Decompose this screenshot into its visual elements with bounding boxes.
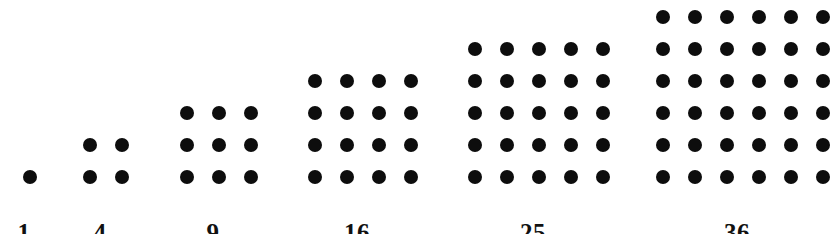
dot — [656, 74, 670, 88]
dot — [23, 170, 37, 184]
square-number-label-16: 16 — [297, 220, 417, 234]
dot — [404, 74, 418, 88]
dot — [244, 170, 258, 184]
dot — [532, 42, 546, 56]
square-group-9: 9 — [171, 0, 255, 234]
dot — [656, 170, 670, 184]
dot — [564, 106, 578, 120]
square-number-label-25: 25 — [473, 220, 593, 234]
dot — [404, 106, 418, 120]
dot — [688, 10, 702, 24]
dot — [532, 74, 546, 88]
dot — [656, 106, 670, 120]
dot — [340, 74, 354, 88]
dot — [500, 138, 514, 152]
dot — [115, 138, 129, 152]
dot — [500, 170, 514, 184]
dot — [596, 42, 610, 56]
dot — [180, 170, 194, 184]
dot — [688, 42, 702, 56]
dot — [596, 106, 610, 120]
dot — [784, 42, 798, 56]
dot — [83, 138, 97, 152]
dot — [752, 10, 766, 24]
dot — [752, 74, 766, 88]
dot — [212, 106, 226, 120]
dot — [784, 170, 798, 184]
square-numbers-figure: 149162536 — [0, 0, 839, 234]
dot — [720, 74, 734, 88]
dot — [816, 74, 830, 88]
dot-array — [459, 33, 619, 193]
dot — [372, 106, 386, 120]
dot — [564, 138, 578, 152]
dot — [720, 10, 734, 24]
dot — [816, 42, 830, 56]
dot — [688, 138, 702, 152]
dot — [688, 106, 702, 120]
dot — [372, 138, 386, 152]
dot — [688, 74, 702, 88]
square-number-label-4: 4 — [40, 220, 160, 234]
square-group-1: 1 — [14, 0, 34, 234]
dot — [720, 170, 734, 184]
dot — [532, 170, 546, 184]
dot — [308, 170, 322, 184]
dot-array — [299, 65, 427, 193]
dot — [180, 106, 194, 120]
dot — [752, 138, 766, 152]
dot — [816, 106, 830, 120]
dot — [656, 10, 670, 24]
dot — [720, 138, 734, 152]
dot — [308, 138, 322, 152]
dot — [372, 170, 386, 184]
square-group-36: 36 — [647, 0, 827, 234]
dot — [308, 74, 322, 88]
square-group-16: 16 — [299, 0, 415, 234]
dot — [688, 170, 702, 184]
dot — [816, 138, 830, 152]
dot — [115, 170, 129, 184]
dot — [564, 74, 578, 88]
dot — [532, 106, 546, 120]
dot — [404, 170, 418, 184]
dot-array — [647, 1, 839, 193]
dot — [468, 106, 482, 120]
dot — [372, 74, 386, 88]
dot — [596, 138, 610, 152]
dot — [752, 106, 766, 120]
dot — [656, 42, 670, 56]
dot — [720, 42, 734, 56]
dot — [564, 170, 578, 184]
dot — [244, 106, 258, 120]
dot — [564, 42, 578, 56]
square-group-25: 25 — [459, 0, 607, 234]
dot — [308, 106, 322, 120]
dot-array — [171, 97, 267, 193]
dot — [720, 106, 734, 120]
dot — [83, 170, 97, 184]
dot — [784, 138, 798, 152]
dot — [500, 106, 514, 120]
square-number-label-36: 36 — [677, 220, 797, 234]
dot — [340, 170, 354, 184]
dot — [500, 42, 514, 56]
dot — [212, 170, 226, 184]
dot-array — [74, 129, 138, 193]
dot — [500, 74, 514, 88]
dot — [212, 138, 226, 152]
dot — [468, 138, 482, 152]
dot — [656, 138, 670, 152]
dot — [816, 10, 830, 24]
dot — [532, 138, 546, 152]
dot — [596, 170, 610, 184]
dot — [784, 74, 798, 88]
dot — [244, 138, 258, 152]
dot — [752, 170, 766, 184]
dot — [468, 74, 482, 88]
dot — [340, 106, 354, 120]
dot — [340, 138, 354, 152]
dot — [180, 138, 194, 152]
dot — [784, 10, 798, 24]
dot — [468, 42, 482, 56]
